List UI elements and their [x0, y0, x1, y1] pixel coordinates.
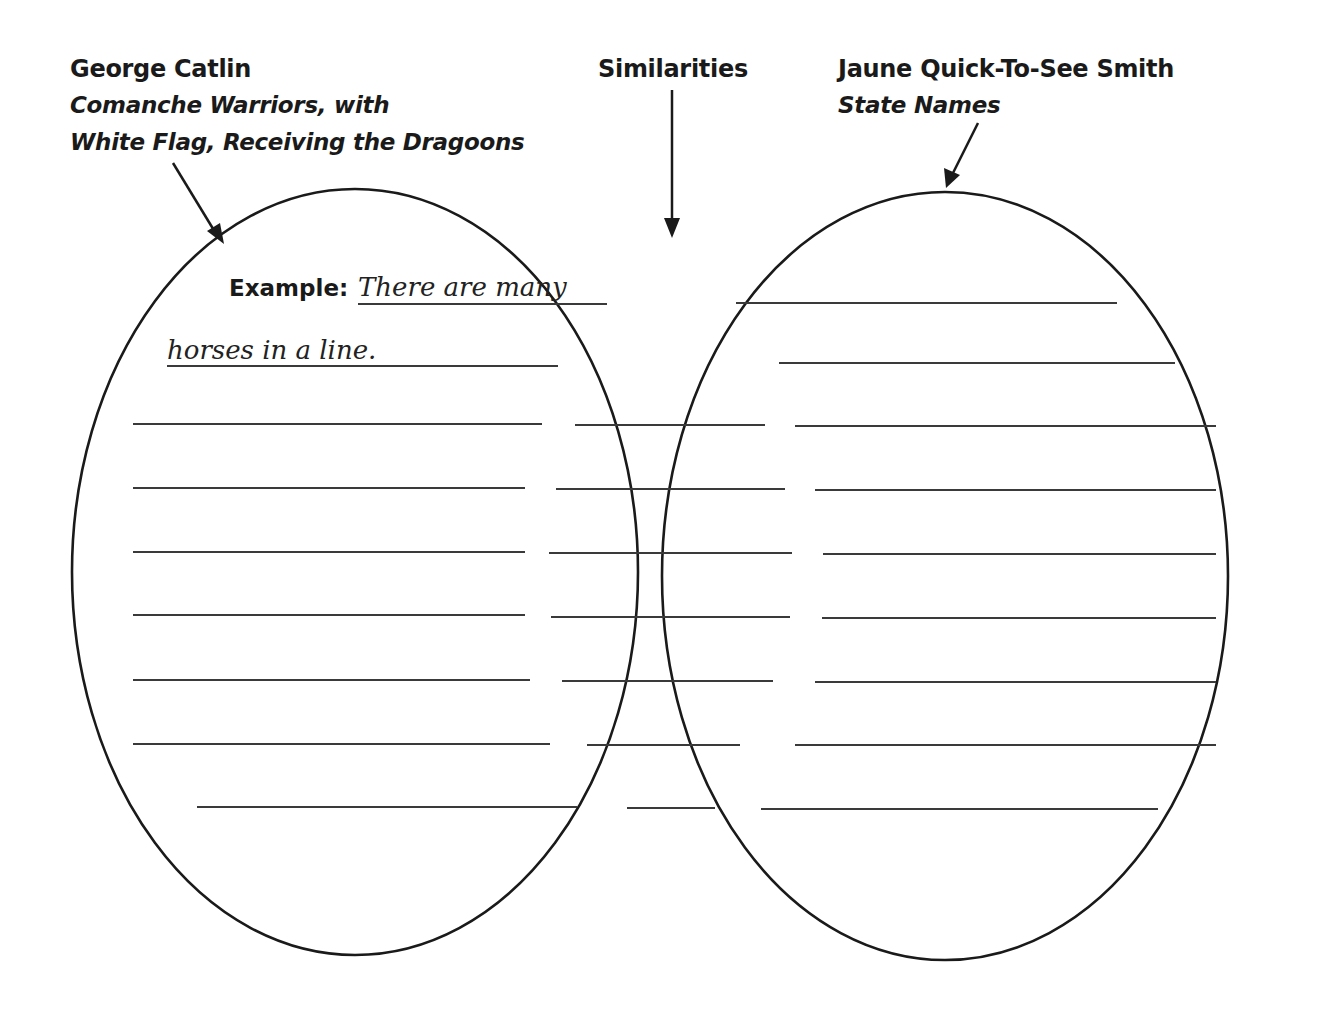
- venn-diagram: Example: There are many horses in a line…: [0, 0, 1333, 1021]
- right-circle: [662, 192, 1228, 960]
- example-text-line2: horses in a line.: [167, 335, 376, 365]
- example-text-line1: There are many: [358, 272, 567, 302]
- similarities-arrow-icon: [664, 90, 680, 238]
- right-arrow-icon: [944, 123, 978, 188]
- left-writing-lines[interactable]: [133, 304, 607, 807]
- example-label: Example:: [229, 275, 348, 301]
- left-arrow-icon: [173, 163, 224, 244]
- right-writing-lines[interactable]: [736, 303, 1216, 809]
